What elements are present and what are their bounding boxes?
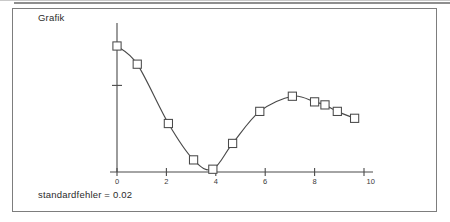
x-tick-label: 4 [214,177,218,186]
x-tick-label: 8 [313,177,317,186]
data-point-marker [256,107,264,115]
x-tick-label: 6 [263,177,267,186]
x-tick-label: 2 [164,177,168,186]
data-point-marker [209,165,217,173]
axes-group [110,23,373,172]
data-point-marker [333,107,341,115]
chart-plot-area: 0246810 [0,0,450,222]
data-point-marker [164,119,172,127]
x-tick-label: 10 [367,177,375,186]
data-point-marker [113,42,121,50]
data-point-marker [288,92,296,100]
data-point-marker [311,98,319,106]
data-series-curve [117,46,355,170]
data-point-marker [229,139,237,147]
x-tick-label: 0 [115,177,119,186]
data-point-marker [351,114,359,122]
x-axis-ticks: 0246810 [115,168,375,186]
data-point-markers [113,42,359,173]
data-point-marker [321,101,329,109]
data-point-marker [189,156,197,164]
data-point-marker [133,60,141,68]
